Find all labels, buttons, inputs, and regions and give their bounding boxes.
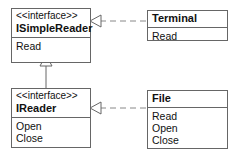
operations-list: Read <box>148 28 227 44</box>
realization-arrowhead-icon <box>90 102 101 114</box>
operation: Read <box>16 40 86 52</box>
class-name: Terminal <box>152 12 223 25</box>
class-name: ISimpleReader <box>16 22 86 35</box>
class-box-file[interactable]: File Read Open Close <box>147 90 228 149</box>
class-header: File <box>148 91 227 108</box>
operations-list: Read Open Close <box>148 108 227 148</box>
operation: Read <box>152 30 223 42</box>
class-header: <<interface>> ISimpleReader <box>12 9 90 38</box>
operation: Read <box>152 110 223 122</box>
operation: Open <box>16 120 86 132</box>
class-name: File <box>152 92 223 105</box>
operation: Close <box>16 132 86 144</box>
operation: Close <box>152 134 223 146</box>
class-header: <<interface>> IReader <box>12 89 90 118</box>
class-header: Terminal <box>148 11 227 28</box>
stereotype-label: <<interface>> <box>16 10 86 22</box>
class-box-ireader[interactable]: <<interface>> IReader Open Close <box>11 88 91 148</box>
class-box-isimplereader[interactable]: <<interface>> ISimpleReader Read <box>11 8 91 63</box>
class-name: IReader <box>16 102 86 115</box>
stereotype-label: <<interface>> <box>16 90 86 102</box>
operation: Open <box>152 122 223 134</box>
operations-list: Read <box>12 38 90 54</box>
operations-list: Open Close <box>12 118 90 146</box>
class-box-terminal[interactable]: Terminal Read <box>147 10 228 41</box>
